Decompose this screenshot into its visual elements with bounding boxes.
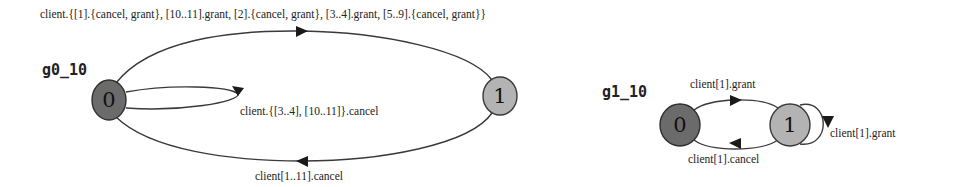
edge-0-self-loop bbox=[126, 87, 238, 109]
edge-label: client[1].grant bbox=[830, 127, 896, 140]
edge-label: client[1].grant bbox=[690, 78, 756, 91]
state-node-0: 0 bbox=[660, 104, 700, 146]
edge-1-to-0 bbox=[116, 113, 492, 161]
state-node-1: 1 bbox=[770, 104, 810, 146]
svg-text:0: 0 bbox=[102, 88, 115, 112]
graph-title: g0_10 bbox=[42, 61, 87, 79]
arrow-head-icon bbox=[296, 156, 308, 167]
arrow-head-icon bbox=[729, 138, 741, 149]
graph-g1-10: g1_10 client[1].grant client[1].grant cl… bbox=[602, 78, 896, 165]
svg-text:1: 1 bbox=[783, 113, 796, 137]
svg-text:0: 0 bbox=[673, 113, 686, 137]
edge-0-to-1 bbox=[116, 31, 492, 83]
graph-g0-10: g0_10 client.{[1].{cancel, grant}, [10..… bbox=[40, 8, 517, 182]
edge-label: client.{[3..4], [10..11]}.cancel bbox=[240, 105, 378, 118]
state-diagram: g0_10 client.{[1].{cancel, grant}, [10..… bbox=[0, 0, 961, 187]
graph-title: g1_10 bbox=[602, 83, 647, 101]
state-node-1: 1 bbox=[483, 77, 517, 115]
edge-label: client.{[1].{cancel, grant}, [10..11].gr… bbox=[40, 8, 486, 21]
svg-text:1: 1 bbox=[493, 84, 506, 108]
arrow-head-icon bbox=[730, 95, 742, 106]
edge-label: client[1].cancel bbox=[688, 153, 759, 165]
arrow-head-icon bbox=[296, 26, 308, 37]
edge-label: client[1..11].cancel bbox=[255, 170, 343, 182]
state-node-0: 0 bbox=[92, 80, 126, 120]
